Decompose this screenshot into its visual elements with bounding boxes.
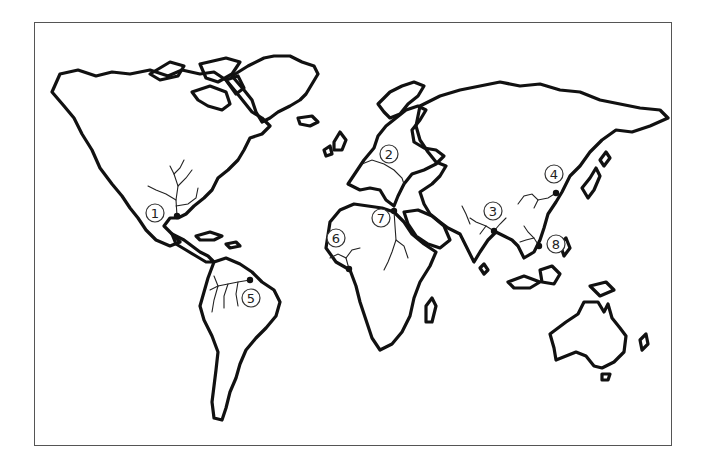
river-indus — [462, 206, 470, 224]
asia-outline — [416, 82, 668, 262]
marker-6-label: 6 — [332, 231, 340, 246]
ireland-outline — [324, 146, 332, 156]
marker-8-label: 8 — [552, 237, 560, 252]
madagascar-outline — [426, 298, 436, 322]
river-yangtze — [518, 193, 556, 208]
japan-island — [600, 152, 610, 166]
river-ganges — [470, 218, 506, 234]
borneo-outline — [540, 266, 560, 284]
iceland-outline — [298, 116, 318, 126]
marker-3-label: 3 — [489, 204, 497, 219]
world-map: 1 2 3 4 5 6 7 8 — [0, 0, 707, 469]
greenland-outline — [232, 56, 318, 122]
caribbean-island — [226, 242, 240, 248]
marker-7[interactable]: 7 — [372, 209, 390, 227]
new-guinea-outline — [590, 282, 614, 296]
delta-dot-1 — [174, 213, 180, 219]
sri-lanka-outline — [480, 264, 488, 274]
delta-dot-7 — [391, 208, 397, 214]
marker-5[interactable]: 5 — [242, 289, 260, 307]
japan-outline — [582, 168, 600, 198]
marker-2[interactable]: 2 — [380, 145, 398, 163]
marker-7-label: 7 — [377, 211, 385, 226]
central-america-outline — [172, 234, 214, 262]
marker-5-label: 5 — [247, 291, 255, 306]
delta-dot-5 — [247, 277, 253, 283]
marker-4-label: 4 — [550, 167, 558, 182]
british-isles-outline — [334, 132, 346, 150]
marker-1[interactable]: 1 — [146, 204, 164, 222]
delta-dot-3 — [491, 228, 497, 234]
river-mekong — [520, 226, 539, 246]
delta-dot-4 — [553, 190, 559, 196]
marker-8[interactable]: 8 — [547, 235, 565, 253]
marker-4[interactable]: 4 — [545, 165, 563, 183]
indonesia-island — [508, 276, 540, 288]
new-zealand-outline — [640, 334, 648, 350]
caribbean-island — [196, 232, 222, 240]
australia-outline — [550, 302, 626, 368]
delta-dot-8 — [536, 243, 542, 249]
marker-3[interactable]: 3 — [484, 202, 502, 220]
tasmania-outline — [602, 374, 610, 380]
river-danube — [362, 160, 404, 184]
marker-2-label: 2 — [385, 147, 393, 162]
delta-dot-6 — [346, 266, 352, 272]
arctic-island — [192, 86, 230, 110]
marker-1-label: 1 — [151, 206, 159, 221]
south-america-outline — [200, 258, 280, 420]
arabia-outline — [404, 210, 450, 248]
marker-6[interactable]: 6 — [327, 229, 345, 247]
